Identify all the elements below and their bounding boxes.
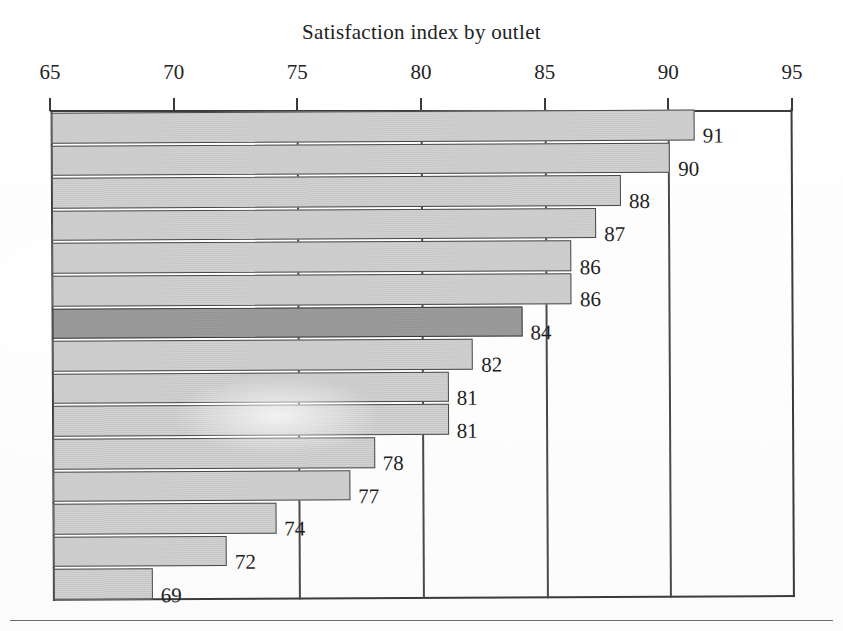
bar-row[interactable]: 78 bbox=[52, 434, 794, 470]
bar[interactable] bbox=[53, 437, 375, 469]
plot-area: 919088878686848281817877747269 bbox=[51, 108, 795, 601]
axis-tick-label: 70 bbox=[163, 60, 184, 85]
bar-row[interactable]: 86 bbox=[51, 239, 793, 275]
bar[interactable] bbox=[52, 175, 621, 208]
bar[interactable] bbox=[53, 404, 449, 437]
axis-tick-label: 85 bbox=[534, 60, 555, 85]
axis-tick-label: 75 bbox=[287, 60, 308, 85]
bar-row[interactable]: 77 bbox=[52, 467, 794, 503]
bar[interactable] bbox=[54, 536, 227, 567]
bar[interactable] bbox=[52, 273, 572, 306]
bar[interactable] bbox=[53, 470, 350, 502]
bar-row[interactable]: 88 bbox=[51, 173, 793, 209]
axis-tick-label: 65 bbox=[40, 60, 61, 85]
figure-page: Satisfaction index by outlet 65707580859… bbox=[0, 0, 843, 631]
bar-row[interactable]: 72 bbox=[53, 532, 795, 568]
bar-row[interactable]: 84 bbox=[52, 304, 794, 340]
bar-highlighted[interactable] bbox=[53, 306, 523, 339]
bar-row[interactable]: 91 bbox=[51, 108, 793, 144]
bar[interactable] bbox=[53, 339, 474, 372]
bar[interactable] bbox=[52, 241, 572, 274]
bar-row[interactable]: 81 bbox=[52, 369, 794, 405]
bar[interactable] bbox=[52, 208, 596, 241]
bar-row[interactable]: 69 bbox=[53, 565, 795, 601]
bar[interactable] bbox=[53, 372, 449, 405]
bar-row[interactable]: 82 bbox=[52, 336, 794, 372]
bar[interactable] bbox=[52, 110, 695, 144]
bar-row[interactable]: 87 bbox=[51, 206, 793, 242]
bar-row[interactable]: 81 bbox=[52, 402, 794, 438]
footer-divider bbox=[10, 620, 833, 621]
bar-row[interactable]: 74 bbox=[52, 499, 794, 535]
x-axis: 65707580859095 bbox=[0, 60, 843, 112]
bar[interactable] bbox=[52, 142, 670, 176]
bar-row[interactable]: 86 bbox=[51, 271, 793, 307]
page-title: Satisfaction index by outlet bbox=[0, 20, 843, 45]
bar[interactable] bbox=[53, 503, 276, 535]
bar[interactable] bbox=[54, 569, 153, 600]
bar-row[interactable]: 90 bbox=[51, 141, 793, 177]
axis-tick-label: 80 bbox=[411, 60, 432, 85]
axis-tick-label: 95 bbox=[782, 60, 803, 85]
bar-value-label: 69 bbox=[161, 585, 182, 606]
axis-tick-label: 90 bbox=[658, 60, 679, 85]
